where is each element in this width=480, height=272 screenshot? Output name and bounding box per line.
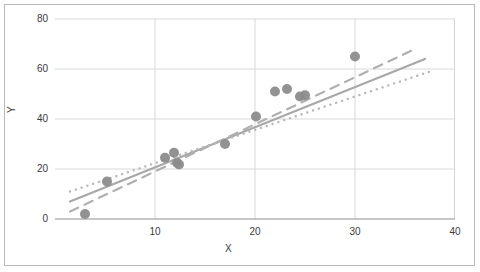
x-tick-label-10: 10 (140, 227, 170, 237)
trendlines-group (70, 49, 430, 212)
dotted-trendline (70, 72, 430, 192)
scatter-point (220, 139, 230, 149)
scatter-point (251, 112, 261, 122)
scatter-points-group (80, 52, 360, 220)
y-tick-label-40: 40 (18, 114, 48, 124)
scatter-point (160, 153, 170, 163)
x-tick-label-40: 40 (440, 227, 470, 237)
scatter-point (350, 52, 360, 62)
plot-svg (55, 19, 455, 219)
y-axis-title: Y (6, 106, 17, 113)
plot-area (55, 19, 455, 219)
scatter-point (169, 148, 179, 158)
x-tick-label-30: 30 (340, 227, 370, 237)
y-tick-label-80: 80 (18, 14, 48, 24)
scatter-point (300, 90, 310, 100)
y-tick-label-60: 60 (18, 64, 48, 74)
dashed-trendline (70, 49, 415, 212)
scatter-point (282, 84, 292, 94)
scatter-point (174, 160, 184, 170)
chart-figure: Y X 80 60 40 20 0 10 20 30 40 (0, 0, 480, 272)
solid-trendline (70, 59, 425, 202)
y-tick-label-0: 0 (18, 214, 48, 224)
x-tick-label-20: 20 (240, 227, 270, 237)
y-tick-label-20: 20 (18, 164, 48, 174)
x-axis-title: X (225, 243, 232, 254)
scatter-point (270, 87, 280, 97)
scatter-point (102, 177, 112, 187)
scatter-point (80, 209, 90, 219)
